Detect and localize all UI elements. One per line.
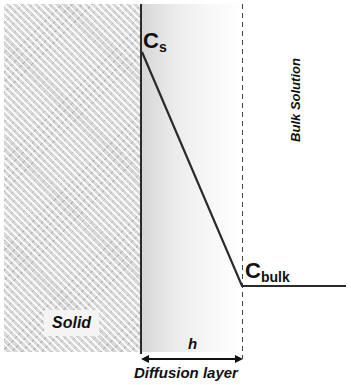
cs-label: Cs: [143, 28, 167, 55]
arrow-left-icon: [141, 355, 149, 363]
bulk-solution-label: Bulk Solution: [288, 58, 303, 142]
thickness-label: h: [188, 335, 197, 352]
thickness-arrow: [141, 355, 243, 363]
solid-label: Solid: [44, 310, 99, 336]
diffusion-layer-label: Diffusion layer: [134, 364, 238, 381]
concentration-gradient-line: [142, 52, 346, 286]
cbulk-label: Cbulk: [245, 258, 290, 285]
arrow-right-icon: [235, 355, 243, 363]
